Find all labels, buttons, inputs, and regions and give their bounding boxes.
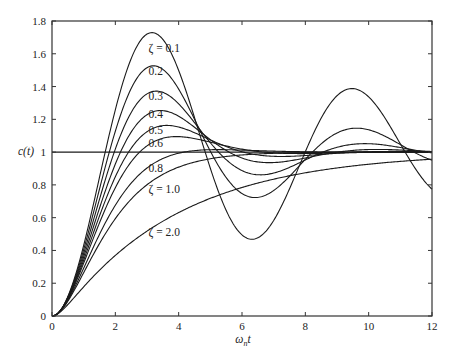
curve-zeta-1 bbox=[52, 152, 432, 316]
y-tick-label: 0.4 bbox=[32, 244, 46, 256]
curve-label: 0.8 bbox=[149, 162, 164, 174]
y-tick-label: 1.4 bbox=[32, 81, 46, 93]
step-response-chart: 024681012 00.20.40.60.811.21.41.61.8 ζ =… bbox=[0, 0, 452, 359]
y-tick-labels: 00.20.40.60.811.21.41.61.8 bbox=[32, 15, 46, 322]
response-curves bbox=[52, 33, 432, 316]
curve-zeta-0-8 bbox=[52, 150, 432, 316]
x-axis-label: ωnt bbox=[235, 333, 251, 348]
y-tick-label: 1.2 bbox=[32, 113, 46, 125]
y-tick-label: 0.2 bbox=[32, 277, 46, 289]
y-axis-label: c(t) bbox=[18, 145, 34, 158]
x-tick-label: 6 bbox=[239, 320, 245, 332]
y-tick-label: 1.8 bbox=[32, 15, 46, 27]
curve-labels: ζ = 0.10.20.30.40.50.60.8ζ = 1.0ζ = 2.0 bbox=[149, 42, 181, 239]
curve-label: ζ = 1.0 bbox=[149, 183, 181, 196]
x-tick-labels: 024681012 bbox=[49, 320, 437, 332]
curve-zeta-0-4 bbox=[52, 111, 432, 316]
y-tick-label: 0.6 bbox=[32, 212, 46, 224]
x-tick-label: 12 bbox=[427, 320, 438, 332]
curve-label: ζ = 0.1 bbox=[149, 42, 181, 55]
curve-label: 0.2 bbox=[149, 65, 164, 77]
curve-label: 0.4 bbox=[149, 108, 164, 120]
y-tick-label: 0 bbox=[41, 310, 47, 322]
curve-zeta-0-1 bbox=[52, 33, 432, 316]
curve-label: ζ = 2.0 bbox=[149, 226, 181, 239]
x-tick-label: 8 bbox=[303, 320, 309, 332]
curve-label: 0.5 bbox=[149, 124, 164, 136]
curve-label: 0.3 bbox=[149, 90, 164, 102]
curve-zeta-0-3 bbox=[52, 91, 432, 316]
x-tick-label: 2 bbox=[113, 320, 119, 332]
y-tick-label: 0.8 bbox=[32, 179, 46, 191]
y-tick-label: 1.6 bbox=[32, 48, 46, 60]
x-tick-label: 0 bbox=[49, 320, 55, 332]
y-tick-label: 1 bbox=[41, 146, 47, 158]
x-axis-label-t: t bbox=[247, 333, 251, 345]
x-tick-label: 4 bbox=[176, 320, 182, 332]
x-tick-label: 10 bbox=[363, 320, 375, 332]
curve-zeta-2 bbox=[52, 159, 432, 316]
curve-label: 0.6 bbox=[149, 137, 164, 149]
x-axis-label-omega: ω bbox=[235, 333, 243, 345]
